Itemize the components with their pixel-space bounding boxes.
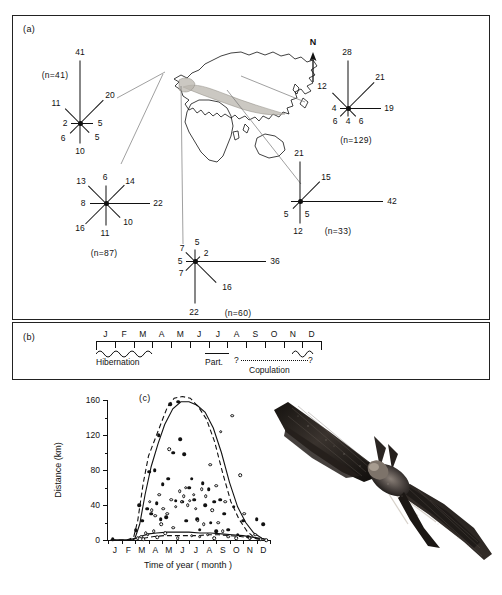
filled-circles-point	[155, 501, 159, 505]
rose-sample-label: (n=87)	[91, 248, 118, 258]
filled-circles-point	[201, 481, 205, 485]
open-circles-point	[150, 508, 154, 512]
filled-circles-point	[212, 500, 216, 504]
rose-value-NE: 2	[204, 248, 209, 258]
filled-circles-point	[203, 503, 207, 507]
rose-value-SW: 7	[179, 268, 184, 278]
rose-value-N: 21	[294, 148, 303, 158]
parturition-bar	[205, 353, 229, 354]
filled-circles-point	[137, 503, 141, 507]
open-circles-point	[158, 493, 162, 497]
spoke-S	[300, 202, 301, 224]
filled-circles-point	[214, 529, 218, 533]
filled-circles-point	[232, 505, 236, 509]
y-tick	[103, 400, 108, 401]
y-tick-minor	[105, 523, 109, 524]
y-axis-title: Distance (km)	[53, 442, 63, 498]
open-circles-point	[164, 531, 168, 535]
open-circles-point	[162, 507, 166, 511]
y-tick	[103, 470, 108, 471]
x-tick	[108, 540, 109, 544]
plot-area: 04080120160 JFMAMJJASOND	[107, 400, 270, 541]
y-tick-label: 120	[86, 430, 100, 440]
open-circles-point	[180, 500, 184, 504]
rose-sample-label: (n=33)	[325, 226, 352, 236]
bat-in-flight-photograph	[268, 396, 500, 568]
rose-value-SE: 10	[123, 217, 132, 227]
rose-value-SE: 6	[359, 116, 364, 126]
panel-a: (a) N	[12, 15, 490, 320]
filled-circles-point	[198, 528, 202, 532]
open-circles-point	[216, 521, 220, 525]
spoke-NE	[300, 181, 321, 202]
rose-value-NE: 20	[105, 90, 114, 100]
x-tick	[162, 540, 163, 544]
filled-circles-point	[145, 507, 149, 511]
open-circles-point	[192, 493, 196, 497]
x-tick	[176, 540, 177, 544]
x-tick-label: M	[138, 545, 145, 555]
rose-value-W: 5	[284, 209, 289, 219]
x-tick	[149, 540, 150, 544]
timeline-month-label: F	[122, 329, 127, 339]
x-tick-label: J	[113, 545, 117, 555]
open-circles-point	[206, 533, 210, 537]
timeline-tick	[265, 341, 266, 348]
hibernation-label: Hibernation	[96, 357, 139, 367]
timeline-tick	[302, 341, 303, 348]
open-circles-point	[146, 533, 150, 537]
open-circles-point	[168, 447, 172, 451]
open-circles-point	[204, 494, 208, 498]
rose-sample-label: (n=129)	[340, 135, 372, 145]
open-circles-point	[190, 534, 194, 538]
x-tick-label: M	[165, 545, 172, 555]
filled-circles-point	[161, 482, 165, 486]
spoke-NE	[348, 82, 375, 109]
rose-sample-label: (n=41)	[42, 70, 69, 80]
spoke-E	[348, 108, 381, 109]
spoke-E	[106, 203, 150, 204]
rose-value-W: 8	[81, 198, 86, 208]
trend-curves	[108, 400, 270, 540]
x-tick	[230, 540, 231, 544]
timeline-tick	[134, 341, 135, 348]
filled-circles-point	[159, 517, 163, 521]
open-circles-point	[210, 508, 214, 512]
rose-value-W: 2	[63, 118, 68, 128]
open-circles-point	[198, 535, 202, 539]
filled-circles-point	[157, 433, 161, 437]
timeline-month-label: J	[197, 329, 201, 339]
open-circles-point	[160, 522, 164, 526]
x-tick	[135, 540, 136, 544]
x-tick	[189, 540, 190, 544]
open-circles-point	[172, 526, 176, 530]
timeline-tick	[284, 341, 285, 348]
timeline-tick	[227, 341, 228, 348]
timeline-month-label: A	[159, 329, 165, 339]
spoke-SW	[85, 203, 106, 224]
spoke-S	[106, 204, 107, 226]
open-circles-point	[182, 494, 186, 498]
open-circles-point	[221, 529, 225, 533]
timeline-tick	[209, 341, 210, 348]
timeline-month-label: J	[216, 329, 220, 339]
rose-value-E: 19	[384, 103, 393, 113]
y-tick	[103, 505, 108, 506]
timeline-month-label: D	[309, 329, 315, 339]
rose-value-NW: 11	[52, 98, 61, 108]
x-tick	[257, 540, 258, 544]
filled-circles-point	[178, 438, 182, 442]
spoke-S	[80, 124, 81, 144]
spoke-E	[300, 201, 383, 202]
rose-value-W: 5	[178, 256, 183, 266]
timeline-month-label: N	[290, 329, 296, 339]
filled-circles-point	[241, 519, 245, 523]
filled-circles-point	[168, 403, 172, 407]
open-circles-point	[153, 514, 157, 518]
rose-value-S: 12	[293, 226, 302, 236]
open-circles-point	[248, 536, 252, 540]
timeline-month-label: S	[253, 329, 259, 339]
rose-value-N: 6	[103, 172, 108, 182]
filled-circles-point	[149, 512, 153, 516]
filled-circles-point	[261, 522, 265, 526]
